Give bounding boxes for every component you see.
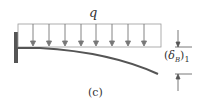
load-label-q: q	[89, 5, 97, 20]
index-1: 1	[184, 55, 189, 64]
fixed-wall-support	[14, 32, 18, 63]
delta-symbol: δ	[168, 49, 175, 62]
load-arrows	[31, 24, 147, 46]
deflected-beam	[18, 48, 158, 74]
figure-caption: (c)	[88, 86, 103, 99]
distributed-load-box	[18, 24, 161, 47]
deflection-label: (δB)1	[164, 49, 189, 64]
